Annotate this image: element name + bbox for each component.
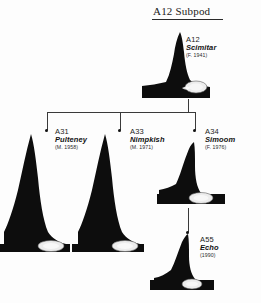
connector-sibling-bar — [47, 112, 196, 113]
fin-a31 — [0, 128, 74, 253]
connector-a12-stem — [188, 99, 189, 112]
connector-a34-to-a55 — [188, 208, 189, 232]
label-a12-date: (F. 1941) — [186, 53, 216, 58]
a12-subpod-genealogy-chart: A12 Subpod A12 Scimitar (F. 1941) A31 Pu… — [0, 0, 261, 303]
fin-a55 — [148, 232, 220, 298]
chart-title: A12 Subpod — [153, 5, 210, 17]
fin-a34 — [155, 140, 227, 212]
title-underline — [152, 19, 223, 20]
node-marker-a34 — [193, 129, 196, 132]
label-a12: A12 Scimitar (F. 1941) — [186, 36, 216, 59]
label-a12-name: Scimitar — [186, 44, 216, 52]
fin-a33 — [70, 128, 148, 253]
connector-drop-a34 — [195, 112, 196, 130]
